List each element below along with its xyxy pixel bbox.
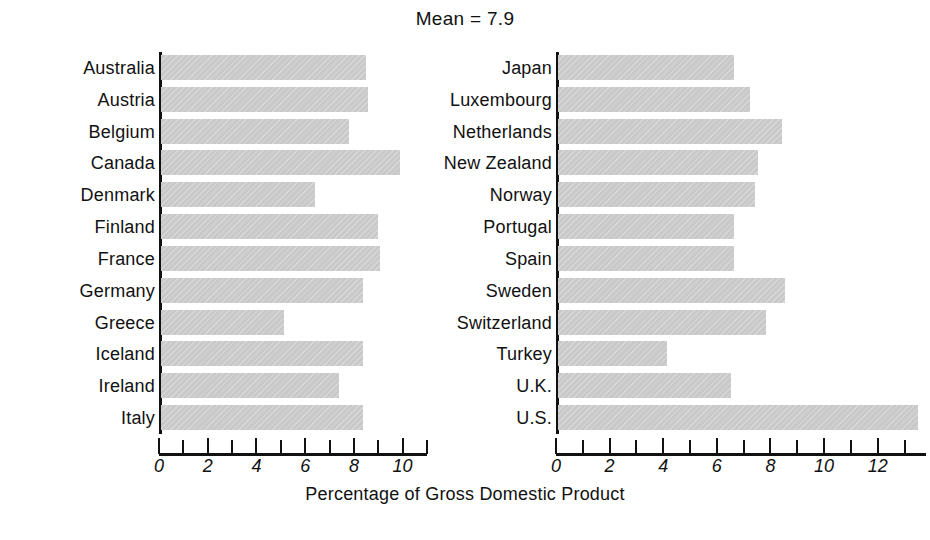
bar — [161, 214, 378, 239]
x-axis-tick — [255, 438, 257, 454]
category-label: France — [0, 250, 155, 268]
category-label: Netherlands — [430, 123, 552, 141]
category-label: U.S. — [430, 409, 552, 427]
x-axis-tick-label: 6 — [712, 456, 722, 477]
category-label: Turkey — [430, 345, 552, 363]
bar-track — [558, 243, 926, 275]
bar-track — [558, 370, 926, 402]
x-axis-tick — [377, 440, 379, 454]
bar — [161, 373, 339, 398]
x-axis-tick — [877, 438, 879, 454]
bar-track — [161, 402, 426, 434]
x-axis-tick — [158, 438, 160, 454]
bar — [558, 214, 734, 239]
category-label: Portugal — [430, 218, 552, 236]
left-panel-bars: AustraliaAustriaBelgiumCanadaDenmarkFinl… — [0, 52, 430, 434]
bar-track — [161, 147, 426, 179]
bar-track — [558, 307, 926, 339]
x-axis-tick — [207, 438, 209, 454]
category-label: Sweden — [430, 282, 552, 300]
category-label: Germany — [0, 282, 155, 300]
bar-row: Canada — [0, 147, 430, 179]
x-axis-tick — [329, 440, 331, 454]
bar-track — [558, 52, 926, 84]
bar-track — [558, 211, 926, 243]
bar — [558, 373, 731, 398]
category-label: U.K. — [430, 377, 552, 395]
x-axis-tick-label: 10 — [814, 456, 834, 477]
x-axis-tick — [823, 438, 825, 454]
right-panel-bars: JapanLuxembourgNetherlandsNew ZealandNor… — [430, 52, 930, 434]
bar — [558, 405, 918, 430]
bar — [161, 341, 363, 366]
bar — [161, 182, 315, 207]
x-axis-tick — [850, 440, 852, 454]
bar-row: France — [0, 243, 430, 275]
category-label: Greece — [0, 314, 155, 332]
x-axis-tick — [796, 440, 798, 454]
category-label: Spain — [430, 250, 552, 268]
x-axis-tick-label: 8 — [349, 456, 359, 477]
bar — [161, 119, 349, 144]
category-label: Italy — [0, 409, 155, 427]
bar-row: Finland — [0, 211, 430, 243]
category-label: Canada — [0, 154, 155, 172]
x-axis-tick-label: 0 — [154, 456, 164, 477]
category-label: Denmark — [0, 186, 155, 204]
x-axis-tick — [904, 440, 906, 454]
bar — [558, 182, 755, 207]
bar-row: Iceland — [0, 338, 430, 370]
x-axis-title: Percentage of Gross Domestic Product — [0, 484, 930, 505]
bar-track — [161, 116, 426, 148]
x-axis-tick — [182, 440, 184, 454]
bar-track — [161, 84, 426, 116]
bar — [558, 341, 667, 366]
category-label: Norway — [430, 186, 552, 204]
x-axis-tick — [635, 440, 637, 454]
bar — [558, 55, 734, 80]
category-label: Belgium — [0, 123, 155, 141]
x-axis-tick — [280, 440, 282, 454]
x-axis-tick-label: 12 — [868, 456, 888, 477]
x-axis-tick — [555, 438, 557, 454]
category-label: Austria — [0, 91, 155, 109]
bar — [161, 55, 366, 80]
category-label: Australia — [0, 59, 155, 77]
bar-row: U.K. — [430, 370, 930, 402]
bar-track — [558, 116, 926, 148]
bar-track — [161, 179, 426, 211]
bar — [558, 119, 782, 144]
chart-figure: Mean = 7.9 AustraliaAustriaBelgiumCanada… — [0, 0, 930, 540]
bar-row: Switzerland — [430, 307, 930, 339]
x-axis-tick — [769, 438, 771, 454]
x-axis-tick — [426, 440, 428, 454]
bar — [161, 246, 380, 271]
bar-row: Italy — [0, 402, 430, 434]
category-label: Finland — [0, 218, 155, 236]
right-panel-x-axis: 024681012 — [556, 434, 926, 480]
bar-track — [558, 275, 926, 307]
category-label: Switzerland — [430, 314, 552, 332]
bar — [161, 87, 368, 112]
bar — [161, 150, 400, 175]
category-label: Ireland — [0, 377, 155, 395]
chart-title: Mean = 7.9 — [0, 8, 930, 30]
x-axis-tick — [609, 438, 611, 454]
bar-track — [558, 338, 926, 370]
bar-row: Spain — [430, 243, 930, 275]
x-axis-tick-label: 4 — [251, 456, 261, 477]
bar-row: New Zealand — [430, 147, 930, 179]
category-label: Iceland — [0, 345, 155, 363]
bar-row: Luxembourg — [430, 84, 930, 116]
x-axis-tick — [353, 438, 355, 454]
x-axis-tick-label: 4 — [658, 456, 668, 477]
bar-track — [558, 84, 926, 116]
x-axis-tick-label: 2 — [605, 456, 615, 477]
category-label: Japan — [430, 59, 552, 77]
left-panel-x-axis-line — [159, 453, 427, 456]
bar-row: Ireland — [0, 370, 430, 402]
x-axis-tick-label: 8 — [765, 456, 775, 477]
bar-track — [558, 179, 926, 211]
bar-row: Australia — [0, 52, 430, 84]
x-axis-tick — [689, 440, 691, 454]
